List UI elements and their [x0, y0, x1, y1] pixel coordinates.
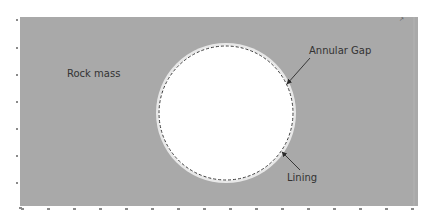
lining-label: Lining: [287, 173, 317, 183]
annular-gap-label: Annular Gap: [309, 46, 371, 56]
rock-mass-label: Rock mass: [67, 69, 120, 79]
axis-indicator-glyph: ↗: [399, 16, 404, 23]
axis-orientation-icon: ↗: [399, 16, 404, 23]
x-axis-ticks: [21, 208, 414, 210]
tunnel-cross-section-diagram: [0, 0, 433, 217]
